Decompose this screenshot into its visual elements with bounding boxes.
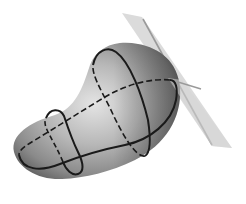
figure	[0, 0, 246, 204]
surface-shading	[13, 43, 180, 179]
surface-diagram	[0, 0, 246, 204]
